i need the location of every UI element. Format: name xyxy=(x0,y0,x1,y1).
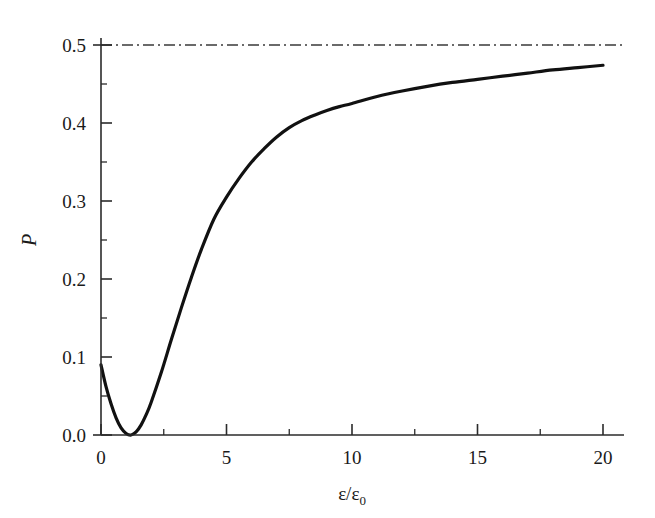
plot-svg: 0 5 10 15 20 0.0 0.1 0.2 0.3 0.4 0.5 P ε… xyxy=(0,0,655,518)
x-tick-label-3: 15 xyxy=(468,447,487,468)
x-axis-title-denominator: ε xyxy=(351,483,359,504)
y-axis-title: P xyxy=(18,234,40,247)
x-axis-title-numerator: ε xyxy=(338,483,346,504)
y-tick-label-3: 0.3 xyxy=(62,191,86,212)
x-tick-label-1: 5 xyxy=(222,447,232,468)
data-curve xyxy=(101,65,603,435)
x-axis-title-subscript: 0 xyxy=(359,493,366,508)
plot-area: 0 5 10 15 20 0.0 0.1 0.2 0.3 0.4 0.5 P ε… xyxy=(18,35,624,508)
x-major-ticks xyxy=(101,424,603,435)
y-minor-ticks xyxy=(101,84,107,396)
y-tick-label-1: 0.1 xyxy=(62,347,86,368)
x-tick-label-2: 10 xyxy=(343,447,362,468)
y-tick-label-5: 0.5 xyxy=(62,35,86,56)
y-tick-label-2: 0.2 xyxy=(62,269,86,290)
x-axis-title: ε/ε0 xyxy=(338,483,366,508)
y-tick-label-0: 0.0 xyxy=(62,425,86,446)
x-tick-label-0: 0 xyxy=(96,447,106,468)
x-tick-label-4: 20 xyxy=(594,447,613,468)
figure-container: 0 5 10 15 20 0.0 0.1 0.2 0.3 0.4 0.5 P ε… xyxy=(0,0,655,518)
y-tick-label-4: 0.4 xyxy=(62,113,86,134)
